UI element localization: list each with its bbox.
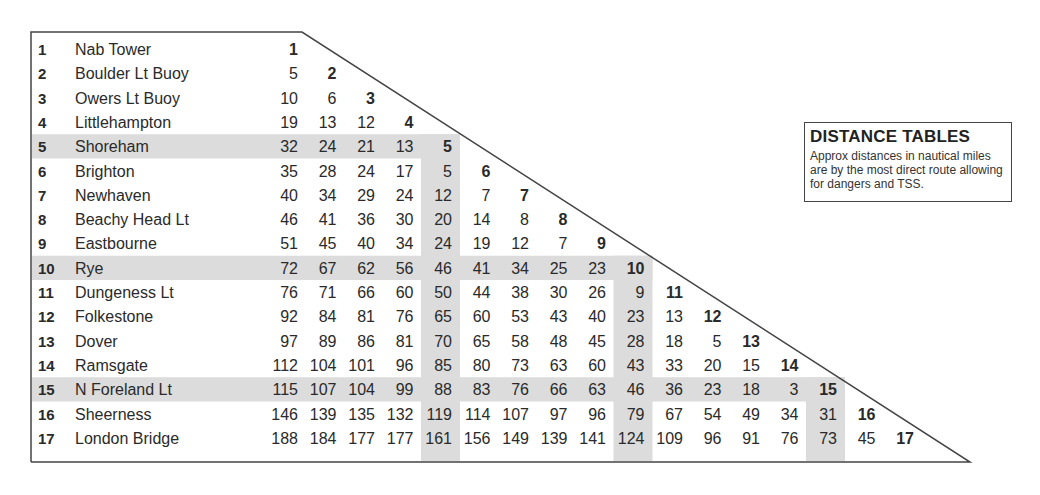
distance-cell: 46 [412, 257, 452, 281]
distance-cell: 141 [566, 427, 606, 451]
distance-cell: 139 [297, 403, 337, 427]
distance-cell: 43 [528, 305, 568, 329]
distance-cell: 58 [489, 330, 529, 354]
distance-cell: 66 [528, 378, 568, 402]
distance-cell: 14 [451, 208, 491, 232]
distance-cell: 54 [682, 403, 722, 427]
distance-cell: 107 [489, 403, 529, 427]
place-name: Dover [75, 330, 118, 354]
diagonal-label: 4 [374, 111, 414, 135]
distance-cell: 33 [643, 354, 683, 378]
distance-cell: 15 [720, 354, 760, 378]
place-name: N Foreland Lt [75, 378, 172, 402]
distance-cell: 109 [643, 427, 683, 451]
distance-cell: 188 [258, 427, 298, 451]
distance-cell: 76 [489, 378, 529, 402]
distance-cell: 30 [374, 208, 414, 232]
distance-cell: 34 [297, 184, 337, 208]
distance-cell: 73 [489, 354, 529, 378]
distance-cell: 81 [335, 305, 375, 329]
distance-cell: 12 [489, 232, 529, 256]
distance-cell: 48 [528, 330, 568, 354]
row-number: 9 [38, 232, 46, 256]
diagonal-label: 5 [412, 135, 452, 159]
place-name: Owers Lt Buoy [75, 87, 180, 111]
distance-cell: 13 [643, 305, 683, 329]
diagonal-label: 10 [605, 257, 645, 281]
distance-cell: 44 [451, 281, 491, 305]
distance-cell: 10 [258, 87, 298, 111]
diagonal-label: 15 [797, 378, 837, 402]
place-name: Folkestone [75, 305, 153, 329]
distance-cell: 45 [297, 232, 337, 256]
diagonal-label: 16 [836, 403, 876, 427]
diagonal-label: 17 [874, 427, 914, 451]
distance-cell: 67 [643, 403, 683, 427]
row-number: 4 [38, 111, 46, 135]
distance-cell: 76 [759, 427, 799, 451]
distance-cell: 26 [566, 281, 606, 305]
distance-cell: 63 [566, 378, 606, 402]
distance-cell: 36 [335, 208, 375, 232]
place-name: London Bridge [75, 427, 179, 451]
distance-cell: 73 [797, 427, 837, 451]
row-number: 12 [38, 305, 55, 329]
row-number: 11 [38, 281, 54, 305]
distance-cell: 24 [374, 184, 414, 208]
distance-cell: 112 [258, 354, 298, 378]
distance-cell: 89 [297, 330, 337, 354]
distance-cell: 28 [605, 330, 645, 354]
diagonal-label: 6 [451, 160, 491, 184]
distance-cell: 96 [566, 403, 606, 427]
distance-cell: 124 [605, 427, 645, 451]
diagonal-label: 12 [682, 305, 722, 329]
distance-cell: 43 [605, 354, 645, 378]
place-name: Littlehampton [75, 111, 171, 135]
distance-cell: 56 [374, 257, 414, 281]
distance-cell: 5 [682, 330, 722, 354]
distance-cell: 104 [297, 354, 337, 378]
distance-cell: 40 [566, 305, 606, 329]
distance-cell: 146 [258, 403, 298, 427]
distance-cell: 70 [412, 330, 452, 354]
distance-cell: 91 [720, 427, 760, 451]
place-name: Shoreham [75, 135, 149, 159]
distance-cell: 34 [489, 257, 529, 281]
distance-cell: 67 [297, 257, 337, 281]
distance-cell: 66 [335, 281, 375, 305]
distance-cell: 76 [374, 305, 414, 329]
distance-cell: 99 [374, 378, 414, 402]
distance-cell: 6 [297, 87, 337, 111]
distance-cell: 156 [451, 427, 491, 451]
distance-cell: 41 [297, 208, 337, 232]
diagonal-label: 9 [566, 232, 606, 256]
distance-cell: 7 [528, 232, 568, 256]
distance-cell: 41 [451, 257, 491, 281]
place-name: Newhaven [75, 184, 151, 208]
distance-cell: 13 [374, 135, 414, 159]
distance-cell: 139 [528, 427, 568, 451]
place-name: Eastbourne [75, 232, 157, 256]
distance-cell: 161 [412, 427, 452, 451]
distance-cell: 34 [759, 403, 799, 427]
distance-cell: 20 [412, 208, 452, 232]
place-name: Beachy Head Lt [75, 208, 189, 232]
distance-cell: 19 [451, 232, 491, 256]
place-name: Rye [75, 257, 103, 281]
distance-cell: 85 [412, 354, 452, 378]
distance-cell: 45 [566, 330, 606, 354]
note-text: Approx distances in nautical miles are b… [810, 149, 1006, 191]
place-name: Boulder Lt Buoy [75, 62, 189, 86]
place-name: Ramsgate [75, 354, 148, 378]
row-number: 5 [38, 135, 46, 159]
distance-cell: 38 [489, 281, 529, 305]
distance-cell: 84 [297, 305, 337, 329]
distance-cell: 12 [335, 111, 375, 135]
distance-cell: 92 [258, 305, 298, 329]
distance-cell: 21 [335, 135, 375, 159]
distance-cell: 149 [489, 427, 529, 451]
distance-cell: 88 [412, 378, 452, 402]
row-number: 6 [38, 160, 46, 184]
diagonal-label: 8 [528, 208, 568, 232]
distance-cell: 135 [335, 403, 375, 427]
